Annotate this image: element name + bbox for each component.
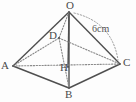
pyramid-drawing bbox=[0, 0, 136, 102]
geometry-figure: O A B C D H 6cm bbox=[0, 0, 136, 102]
vertex-dot-A bbox=[12, 65, 14, 67]
measure-arc-group bbox=[74, 13, 118, 60]
edge-o-a bbox=[13, 12, 69, 66]
vertex-label-O: O bbox=[66, 0, 74, 11]
measure-arc-oc bbox=[74, 13, 118, 60]
vertex-label-B: B bbox=[65, 89, 72, 100]
vertex-label-H: H bbox=[60, 62, 68, 73]
vertex-label-D: D bbox=[49, 30, 57, 41]
edge-o-c bbox=[69, 12, 120, 64]
vertex-label-C: C bbox=[123, 57, 130, 68]
edge-b-c bbox=[69, 64, 120, 88]
vertex-dot-D bbox=[58, 37, 60, 39]
measure-label-6cm: 6cm bbox=[92, 24, 109, 34]
vertex-dot-O bbox=[68, 11, 70, 13]
vertex-label-A: A bbox=[1, 60, 9, 71]
edge-a-d-hidden bbox=[13, 38, 59, 66]
altitude-o-h bbox=[68, 12, 69, 67]
vertex-dot-C bbox=[119, 63, 121, 65]
